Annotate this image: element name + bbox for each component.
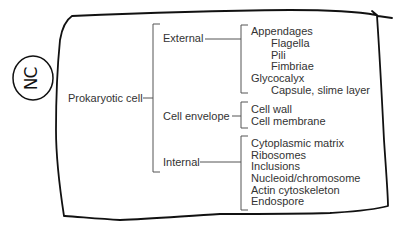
item-endospore: Endospore bbox=[251, 195, 304, 207]
item-flagella: Flagella bbox=[271, 37, 310, 49]
group-internal: Internal bbox=[163, 156, 200, 168]
item-capsule: Capsule, slime layer bbox=[271, 84, 370, 96]
item-appendages: Appendages bbox=[251, 25, 313, 37]
diagram-canvas: NC Prokaryotic cell External Cell envelo… bbox=[0, 0, 402, 230]
group-cell-envelope: Cell envelope bbox=[163, 110, 230, 122]
root-node: Prokaryotic cell bbox=[68, 92, 143, 104]
item-nucleoid: Nucleoid/chromosome bbox=[251, 172, 360, 184]
annotation-nc: NC bbox=[16, 64, 46, 94]
group-external: External bbox=[163, 32, 203, 44]
item-fimbriae: Fimbriae bbox=[271, 60, 314, 72]
item-cell-wall: Cell wall bbox=[251, 103, 292, 115]
item-glycocalyx: Glycocalyx bbox=[251, 72, 304, 84]
item-inclusions: Inclusions bbox=[251, 160, 300, 172]
item-cell-membrane: Cell membrane bbox=[251, 115, 326, 127]
item-cytoplasmic-matrix: Cytoplasmic matrix bbox=[251, 137, 344, 149]
